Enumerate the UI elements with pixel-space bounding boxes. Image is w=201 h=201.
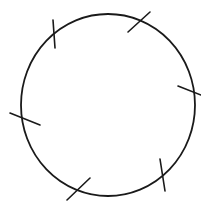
tick-left xyxy=(10,113,40,125)
tick-bottom-left xyxy=(67,178,90,200)
tick-top-left xyxy=(53,20,55,48)
circle-diagram xyxy=(0,0,201,201)
circle-outline xyxy=(21,14,195,196)
tick-right xyxy=(178,86,201,95)
tick-top-right xyxy=(128,12,150,32)
